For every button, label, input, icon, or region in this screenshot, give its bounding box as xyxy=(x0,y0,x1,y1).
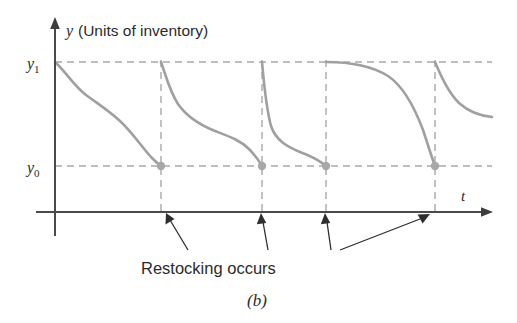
y-axis-symbol: y xyxy=(64,22,74,40)
callout-arrowhead-2 xyxy=(257,213,266,224)
callout-line-3 xyxy=(327,222,331,250)
inventory-figure: y (Units of inventory) y1 y0 t Restockin… xyxy=(0,0,517,323)
y-tick-label-low: y0 xyxy=(25,159,40,179)
y-tick-low-subscript: 0 xyxy=(34,167,40,179)
callout-line-1 xyxy=(170,220,188,250)
inventory-curve-5 xyxy=(435,62,492,117)
y-tick-high-subscript: 1 xyxy=(34,63,40,75)
inventory-curve-4 xyxy=(326,62,435,166)
callout-arrowhead-1 xyxy=(166,213,175,225)
x-axis-arrowhead xyxy=(481,207,493,217)
inventory-chart-svg: y (Units of inventory) y1 y0 t Restockin… xyxy=(0,0,517,323)
restocking-annotation: Restocking occurs xyxy=(141,259,276,277)
callout-line-4 xyxy=(340,219,420,250)
figure-caption: (b) xyxy=(247,291,267,310)
inventory-curve-3 xyxy=(262,62,326,166)
inventory-curve-2 xyxy=(161,62,262,166)
callout-arrowhead-3 xyxy=(321,213,330,224)
y-axis-arrowhead xyxy=(50,17,60,29)
callout-line-2 xyxy=(263,222,268,250)
x-axis-label: t xyxy=(461,188,466,204)
y-axis-label: (Units of inventory) xyxy=(78,22,208,39)
restock-dot-1 xyxy=(157,162,165,170)
restock-dot-4 xyxy=(431,162,439,170)
restock-dot-3 xyxy=(322,162,330,170)
y-tick-label-high: y1 xyxy=(25,55,40,75)
inventory-curve-1 xyxy=(55,62,161,166)
restock-dot-2 xyxy=(258,162,266,170)
